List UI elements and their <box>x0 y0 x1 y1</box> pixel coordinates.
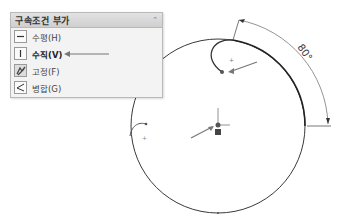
dimension-arc[interactable] <box>239 20 328 124</box>
callout-arrow-icon <box>64 50 109 58</box>
vertical-icon <box>14 47 27 60</box>
panel-title: 구속조건 부가 <box>15 14 70 27</box>
relation-fix[interactable]: 고정(F) <box>11 62 162 79</box>
dimension-arrowhead-2 <box>326 118 330 124</box>
left-center-mark: + <box>142 134 147 141</box>
dimension-label[interactable]: 80° <box>295 42 314 63</box>
relation-merge[interactable]: 병합(G) <box>11 79 162 96</box>
constraint-marker-icon <box>215 129 221 135</box>
relation-merge-label: 병합(G) <box>32 82 61 94</box>
arc-endpoint[interactable] <box>220 70 224 74</box>
relation-horizontal-label: 수평(H) <box>32 31 61 43</box>
add-relations-panel: 구속조건 부가 ⌃ 수평(H) 수직(V) 고정(F) 병합(G) <box>10 12 163 98</box>
pointer-arrow-arc <box>232 62 257 71</box>
merge-icon <box>14 81 27 94</box>
relation-vertical[interactable]: 수직(V) <box>11 45 162 62</box>
panel-header[interactable]: 구속조건 부가 ⌃ <box>11 13 162 28</box>
horizontal-icon <box>14 30 27 43</box>
circle-quadrant-point <box>217 212 219 214</box>
pointer-arrow-center <box>191 127 212 138</box>
relation-fix-label: 고정(F) <box>32 65 60 77</box>
relation-vertical-label: 수직(V) <box>32 48 62 60</box>
double-chevron-up-icon[interactable]: ⌃ <box>152 16 158 24</box>
left-arc-endpoint <box>145 123 148 126</box>
extension-line-1 <box>233 20 239 40</box>
fix-icon <box>14 64 27 77</box>
arc-center-mark: + <box>229 56 234 63</box>
pointer-arrowhead-arc <box>228 68 234 74</box>
relation-horizontal[interactable]: 수평(H) <box>11 28 162 45</box>
circle-center-point[interactable] <box>216 123 221 128</box>
selected-arc[interactable] <box>233 40 305 126</box>
